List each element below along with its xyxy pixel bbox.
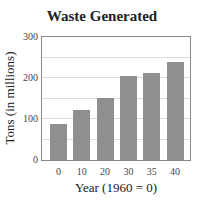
bar-10 <box>73 110 90 160</box>
bar-20 <box>97 98 114 160</box>
x-tick-label: 35 <box>142 166 162 177</box>
chart-title: Waste Generated <box>0 8 204 25</box>
x-tick-label: 0 <box>49 166 69 177</box>
bar-40 <box>167 62 184 160</box>
gridline <box>42 57 190 58</box>
x-tick-label: 40 <box>165 166 185 177</box>
y-tick-label: 0 <box>33 155 38 165</box>
y-tick-label: 100 <box>23 114 38 124</box>
x-tick-label: 20 <box>95 166 115 177</box>
y-tick-label: 200 <box>23 73 38 83</box>
x-axis-label: Year (1960 = 0) <box>41 180 191 196</box>
bar-35 <box>143 73 160 160</box>
x-tick-label: 30 <box>118 166 138 177</box>
bar-0 <box>50 124 67 160</box>
x-tick-label: 10 <box>72 166 92 177</box>
plot-area <box>41 36 191 161</box>
y-axis-label: Tons (in millions) <box>2 52 18 145</box>
bar-30 <box>120 76 137 160</box>
y-tick-label: 300 <box>23 32 38 42</box>
